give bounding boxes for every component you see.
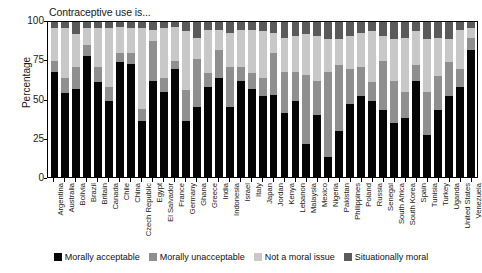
legend-label: Morally acceptable	[65, 252, 140, 262]
x-axis-tick	[114, 178, 125, 182]
bar-segment	[193, 59, 201, 107]
x-axis-label-slot: Britain	[92, 183, 103, 245]
stacked-bar[interactable]	[270, 22, 278, 177]
stacked-bar[interactable]	[302, 22, 310, 177]
stacked-bar[interactable]	[423, 22, 431, 177]
stacked-bar[interactable]	[259, 22, 267, 177]
legend-swatch-icon	[54, 253, 62, 261]
stacked-bar[interactable]	[215, 22, 223, 177]
stacked-bar[interactable]	[116, 22, 124, 177]
x-axis-tick	[246, 178, 257, 182]
bar-segment	[401, 118, 409, 177]
chart-title: Contraceptive use is...	[49, 6, 151, 18]
stacked-bar[interactable]	[171, 22, 179, 177]
legend-item[interactable]: Situationally moral	[344, 252, 429, 262]
stacked-bar[interactable]	[313, 22, 321, 177]
stacked-bar[interactable]	[105, 22, 113, 177]
bar-segment	[324, 22, 332, 39]
x-axis-tick-mark	[119, 178, 120, 182]
x-axis-tick	[356, 178, 367, 182]
stacked-bar[interactable]	[193, 22, 201, 177]
bar-segment	[116, 27, 124, 53]
stacked-bar[interactable]	[226, 22, 234, 177]
legend-item[interactable]: Morally unacceptable	[149, 252, 245, 262]
bar-segment	[270, 22, 278, 33]
stacked-bar[interactable]	[149, 22, 157, 177]
stacked-bar[interactable]	[467, 22, 475, 177]
stacked-bar[interactable]	[357, 22, 365, 177]
bar-slot	[246, 22, 257, 177]
bar-segment	[302, 34, 310, 74]
bar-segment	[423, 39, 431, 92]
legend-item[interactable]: Not a moral issue	[254, 252, 335, 262]
bar-segment	[423, 22, 431, 39]
bar-segment	[248, 73, 256, 89]
stacked-bar[interactable]	[346, 22, 354, 177]
stacked-bar[interactable]	[83, 22, 91, 177]
stacked-bar[interactable]	[127, 22, 135, 177]
stacked-bar[interactable]	[368, 22, 376, 177]
bar-segment	[138, 121, 146, 177]
legend-label: Morally unacceptable	[160, 252, 245, 262]
stacked-bar[interactable]	[160, 22, 168, 177]
bar-segment	[116, 62, 124, 177]
stacked-bar[interactable]	[72, 22, 80, 177]
stacked-bar[interactable]	[292, 22, 300, 177]
x-axis-tick-mark	[53, 178, 54, 182]
stacked-bar[interactable]	[434, 22, 442, 177]
x-axis-tick-mark	[295, 178, 296, 182]
stacked-bar[interactable]	[390, 22, 398, 177]
stacked-bar[interactable]	[248, 22, 256, 177]
stacked-bar[interactable]	[401, 22, 409, 177]
stacked-bar[interactable]	[324, 22, 332, 177]
stacked-bar[interactable]	[335, 22, 343, 177]
x-axis-label-slot: Indonesia	[224, 183, 235, 245]
chart-legend: Morally acceptableMorally unacceptableNo…	[0, 252, 482, 262]
bar-slot	[465, 22, 476, 177]
plot-area	[47, 21, 478, 178]
bar-segment	[412, 65, 420, 81]
bar-slot	[410, 22, 421, 177]
bar-segment	[51, 72, 59, 177]
bar-slot	[454, 22, 465, 177]
bar-slot	[389, 22, 400, 177]
stacked-bar[interactable]	[456, 22, 464, 177]
stacked-bar[interactable]	[379, 22, 387, 177]
bar-slot	[367, 22, 378, 177]
x-axis-label-slot: Egypt	[147, 183, 158, 245]
bar-segment	[335, 22, 343, 39]
stacked-bar[interactable]	[412, 22, 420, 177]
stacked-bar[interactable]	[204, 22, 212, 177]
stacked-bar[interactable]	[445, 22, 453, 177]
bar-segment	[357, 33, 365, 67]
bar-segment	[401, 38, 409, 92]
bar-segment	[204, 87, 212, 177]
stacked-bar[interactable]	[94, 22, 102, 177]
y-axis-tick-label: 100	[0, 16, 44, 26]
stacked-bar[interactable]	[182, 22, 190, 177]
x-axis-tick-mark	[317, 178, 318, 182]
bar-segment	[281, 72, 289, 114]
x-axis-tick-mark	[394, 178, 395, 182]
bar-segment	[248, 30, 256, 73]
x-axis-tick	[257, 178, 268, 182]
chart-figure: Contraceptive use is... Percentage 10075…	[0, 0, 482, 273]
bar-segment	[456, 69, 464, 88]
stacked-bar[interactable]	[237, 22, 245, 177]
bar-slot	[290, 22, 301, 177]
x-axis-label-slot: Lebanon	[290, 183, 301, 245]
bar-slot	[279, 22, 290, 177]
x-axis-tick-mark	[185, 178, 186, 182]
legend-item[interactable]: Morally acceptable	[54, 252, 140, 262]
bar-slot	[268, 22, 279, 177]
bar-segment	[346, 22, 354, 36]
stacked-bar[interactable]	[61, 22, 69, 177]
stacked-bar[interactable]	[51, 22, 59, 177]
y-axis-tick-label: 25	[0, 134, 44, 144]
stacked-bar[interactable]	[281, 22, 289, 177]
bar-segment	[51, 61, 59, 72]
x-axis-tick-mark	[427, 178, 428, 182]
x-axis-label-slot: Kenya	[279, 183, 290, 245]
bar-segment	[390, 123, 398, 177]
stacked-bar[interactable]	[138, 22, 146, 177]
